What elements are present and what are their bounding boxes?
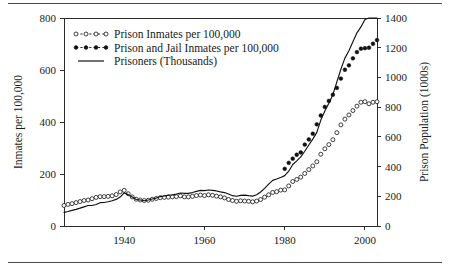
series-marker-prison [186, 195, 190, 199]
series-marker-prison [78, 200, 82, 204]
series-marker-prison [62, 203, 66, 207]
series-marker-prison [291, 180, 295, 184]
y2-tick-label: 400 [385, 161, 402, 173]
series-marker-prison-jail [359, 47, 363, 51]
series-marker-prison [339, 123, 343, 127]
series-marker-prison [283, 188, 287, 192]
series-marker-prison [299, 175, 303, 179]
series-marker-prison [239, 199, 243, 203]
series-marker-prison [235, 199, 239, 203]
legend-marker [74, 32, 78, 36]
series-marker-prison [351, 109, 355, 113]
series-marker-prison [102, 195, 106, 199]
series-marker-prison [219, 195, 223, 199]
series-marker-prison [295, 177, 299, 181]
y2-tick-label: 0 [385, 220, 391, 232]
y-tick-label: 400 [40, 116, 57, 128]
series-marker-prison [174, 195, 178, 199]
series-marker-prison [94, 195, 98, 199]
series-marker-prison [251, 200, 255, 204]
series-marker-prison [355, 104, 359, 108]
series-marker-prison [178, 194, 182, 198]
legend-label: Prisoners (Thousands) [114, 55, 217, 68]
bottom-horizontal-rule [8, 262, 442, 263]
series-marker-prison-jail [343, 68, 347, 72]
series-marker-prison [70, 202, 74, 206]
y2-tick-label: 600 [385, 131, 402, 143]
series-marker-prison-jail [375, 38, 379, 42]
y2-tick-label: 200 [385, 190, 402, 202]
y-axis-left-title: Inmates per 100,000 [12, 75, 25, 169]
series-marker-prison-jail [347, 63, 351, 67]
series-marker-prison [223, 196, 227, 200]
y-axis-left-ticks: 0200400600800 [40, 12, 65, 232]
series-marker-prison [194, 194, 198, 198]
x-axis-ticks: 1940196019802000 [113, 226, 376, 246]
legend-marker [84, 32, 88, 36]
legend-marker [74, 46, 78, 50]
y2-tick-label: 800 [385, 101, 402, 113]
series-marker-prison [106, 194, 110, 198]
series-marker-prison [74, 201, 78, 205]
series-marker-prison [375, 100, 379, 104]
chart-legend: Prison Inmates per 100,000Prison and Jai… [74, 28, 279, 68]
x-tick-label: 1980 [274, 234, 297, 246]
series-marker-prison [327, 143, 331, 147]
series-marker-prison-jail [351, 56, 355, 60]
series-marker-prison-jail [287, 161, 291, 165]
series-marker-prison [182, 195, 186, 199]
series-marker-prison-jail [291, 157, 295, 161]
series-marker-prison-jail [283, 167, 287, 171]
series-marker-prison [279, 188, 283, 192]
y-tick-label: 600 [40, 64, 57, 76]
series-marker-prison [335, 131, 339, 135]
series-marker-prison [271, 190, 275, 194]
series-marker-prison [275, 190, 279, 194]
y2-tick-label: 1400 [385, 12, 408, 24]
y2-tick-label: 1200 [385, 42, 408, 54]
series-marker-prison [202, 194, 206, 198]
y-tick-label: 800 [40, 12, 57, 24]
series-marker-prison [98, 195, 102, 199]
series-marker-prison [263, 195, 267, 199]
series-marker-prison [114, 193, 118, 197]
series-marker-prison [343, 117, 347, 121]
series-marker-prison [247, 199, 251, 203]
legend-marker [94, 46, 98, 50]
series-marker-prison [359, 100, 363, 104]
series-marker-prison [331, 138, 335, 142]
series-marker-prison [311, 164, 315, 168]
series-marker-prison [227, 197, 231, 201]
series-marker-prison [190, 194, 194, 198]
chart-svg: 1940196019802000 0200400600800 020040060… [0, 6, 450, 258]
legend-label: Prison Inmates per 100,000 [114, 28, 241, 41]
legend-marker [104, 46, 108, 50]
series-marker-prison [243, 199, 247, 203]
series-marker-prison-jail [371, 42, 375, 46]
series-marker-prison [110, 194, 114, 198]
x-tick-label: 1960 [193, 234, 216, 246]
series-marker-prison [367, 102, 371, 106]
x-tick-label: 1940 [113, 234, 136, 246]
series-marker-prison [363, 100, 367, 104]
chart-container: 1940196019802000 0200400600800 020040060… [0, 6, 450, 258]
series-marker-prison [90, 197, 94, 201]
series-marker-prison [319, 152, 323, 156]
y-axis-right-title: Prison Population (1000s) [418, 62, 431, 182]
series-marker-prison [210, 193, 214, 197]
series-marker-prison [303, 171, 307, 175]
series-marker-prison [255, 199, 259, 203]
series-marker-prison [86, 198, 90, 202]
legend-marker [94, 32, 98, 36]
y-tick-label: 200 [40, 168, 57, 180]
series-marker-prison-jail [295, 153, 299, 157]
series-marker-prison [206, 193, 210, 197]
legend-label: Prison and Jail Inmates per 100,000 [114, 42, 279, 55]
series-marker-prison-jail [299, 151, 303, 155]
series-marker-prison [66, 202, 70, 206]
series-marker-prison-jail [355, 50, 359, 54]
series-marker-prison [259, 197, 263, 201]
series-marker-prison [82, 199, 86, 203]
series-marker-prison [214, 194, 218, 198]
legend-marker [84, 46, 88, 50]
